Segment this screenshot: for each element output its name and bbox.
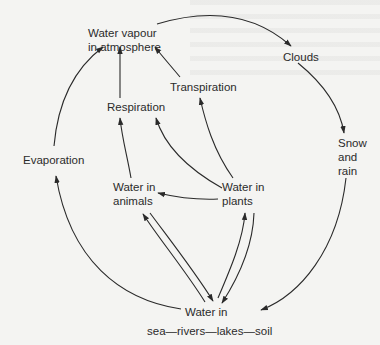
node-water-in-sea: Water in	[185, 305, 227, 319]
node-sea-line1: Water in	[185, 305, 227, 319]
node-snow-and-rain: Snow and rain	[338, 136, 367, 178]
edge-evaporation-to-vapour	[54, 47, 103, 146]
node-plants-line2: plants	[222, 194, 264, 208]
node-animals-line2: animals	[113, 194, 155, 208]
edge-animals-to-sea	[150, 213, 213, 301]
edge-vapour-to-clouds	[157, 15, 291, 46]
edges-layer	[0, 0, 380, 345]
node-snow-line3: rain	[338, 164, 367, 178]
node-transpiration-label: Transpiration	[170, 80, 237, 94]
node-respiration: Respiration	[107, 100, 165, 114]
node-sea-rivers-lakes-soil: sea—rivers—lakes—soil	[147, 324, 272, 338]
edge-sea-to-animals	[143, 214, 205, 302]
node-clouds: Clouds	[283, 50, 319, 64]
node-water-vapour: Water vapour in atmosphere	[88, 26, 161, 54]
edge-plants-to-animals	[158, 193, 218, 199]
water-cycle-diagram: Water vapour in atmosphere Clouds Snow a…	[0, 0, 380, 345]
node-water-vapour-line2: in atmosphere	[88, 40, 161, 54]
node-snow-line2: and	[338, 150, 367, 164]
node-water-vapour-line1: Water vapour	[88, 26, 161, 40]
node-clouds-label: Clouds	[283, 50, 319, 64]
edge-snow-to-sea	[261, 178, 346, 310]
node-snow-line1: Snow	[338, 136, 367, 150]
node-water-in-animals: Water in animals	[113, 180, 155, 208]
edge-plants-to-transpiration	[200, 98, 233, 178]
edge-plants-to-sea	[222, 213, 254, 303]
edge-sea-to-plants	[218, 213, 245, 298]
node-animals-line1: Water in	[113, 180, 155, 194]
edge-clouds-to-snow	[298, 63, 344, 133]
node-respiration-label: Respiration	[107, 100, 165, 114]
edge-plants-to-respiration	[156, 118, 222, 188]
node-evaporation-label: Evaporation	[23, 153, 84, 167]
node-water-in-plants: Water in plants	[222, 180, 264, 208]
node-plants-line1: Water in	[222, 180, 264, 194]
node-evaporation: Evaporation	[23, 153, 84, 167]
node-transpiration: Transpiration	[170, 80, 237, 94]
node-sea-line2: sea—rivers—lakes—soil	[147, 324, 272, 338]
edge-animals-to-respiration	[120, 118, 131, 178]
